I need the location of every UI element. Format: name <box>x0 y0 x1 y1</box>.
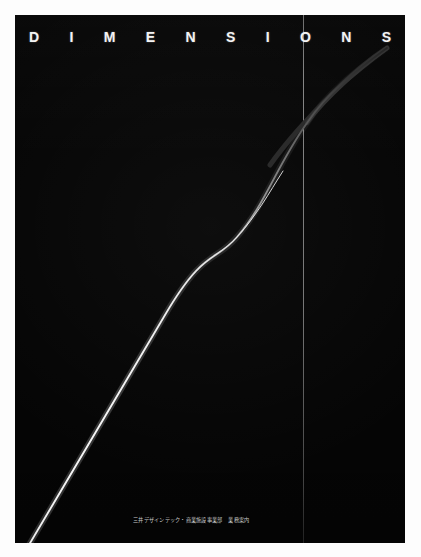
headline-letter-s1: S <box>226 30 235 44</box>
headline-letter-i2: I <box>266 30 270 44</box>
s-curve-upper-mass-inner <box>307 48 387 123</box>
s-curve-stroke <box>23 48 387 543</box>
s-curve-upper-mass <box>270 48 387 165</box>
caption-subtitle: 業務案内 <box>228 517 249 523</box>
headline-letter-i1: I <box>69 30 73 44</box>
headline-letter-n1: N <box>185 30 195 44</box>
headline-letter-d: D <box>29 30 39 44</box>
poster-canvas: D I M E N S I O N S 三井デザインテック・商業施設事業部業務案… <box>0 0 421 557</box>
caption: 三井デザインテック・商業施設事業部業務案内 <box>133 518 249 523</box>
headline-letter-o: O <box>300 30 311 44</box>
headline-letter-m: M <box>104 30 116 44</box>
caption-company: 三井デザインテック・商業施設事業部 <box>133 517 222 523</box>
headline-letter-s2: S <box>382 30 391 44</box>
s-curve-halo <box>23 48 387 543</box>
headline-letter-n2: N <box>341 30 351 44</box>
s-curve-graphic <box>15 15 405 543</box>
headline: D I M E N S I O N S <box>15 30 405 44</box>
poster-dark-panel: D I M E N S I O N S 三井デザインテック・商業施設事業部業務案… <box>15 15 405 543</box>
headline-letter-e: E <box>146 30 155 44</box>
